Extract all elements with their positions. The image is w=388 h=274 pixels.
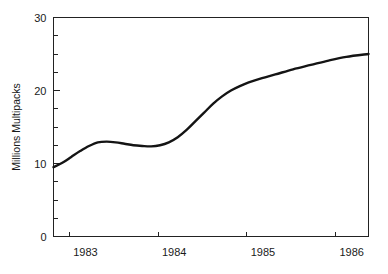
y-tick-label-10: 10: [34, 158, 46, 170]
x-tick-label-1985: 1985: [251, 246, 275, 258]
data-series-group: [54, 54, 369, 167]
y-axis-minor-ticks: [54, 36, 58, 219]
x-tick-label-1984: 1984: [162, 246, 186, 258]
x-axis-ticks: [69, 232, 335, 237]
plot-frame-border: [54, 18, 369, 237]
y-axis-title-text: Millions Multipacks: [10, 83, 22, 171]
y-tick-label-20: 20: [34, 85, 46, 97]
chart-figure: Millions Multipacks 0102030 198319841985…: [0, 0, 388, 274]
x-tick-label-1986: 1986: [339, 246, 363, 258]
line-chart: Millions Multipacks 0102030 198319841985…: [0, 0, 388, 274]
data-line-series-0: [54, 54, 369, 167]
y-tick-label-0: 0: [40, 231, 46, 243]
x-axis-tick-labels: 1983198419851986: [73, 246, 364, 258]
y-tick-label-30: 30: [34, 12, 46, 24]
x-tick-label-1983: 1983: [73, 246, 97, 258]
y-axis-title: Millions Multipacks: [10, 83, 22, 171]
y-axis-tick-labels: 0102030: [34, 12, 46, 243]
plot-frame: [54, 18, 369, 237]
